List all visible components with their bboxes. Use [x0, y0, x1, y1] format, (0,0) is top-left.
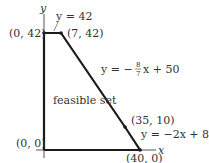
vertex-label-40-0: (40, 0) — [126, 152, 163, 163]
frac-den: 7 — [136, 70, 140, 78]
vertex-label-0-0: (0, 0) — [16, 137, 46, 150]
vertex-label-35-10: (35, 10) — [131, 114, 175, 127]
constraint-y42: y = 42 — [55, 10, 92, 23]
feasible-region-boundary — [44, 33, 140, 150]
constraint-prefix: y = − — [100, 63, 133, 76]
feasible-set-diagram: y x (0, 42) (7, 42) (35, 10) (40, 0) (0,… — [0, 0, 209, 163]
vertex-label-0-42: (0, 42) — [9, 27, 46, 40]
vertex-7-42 — [59, 31, 63, 35]
constraint-y-2x80: y = −2x + 80 — [140, 128, 209, 141]
vertex-35-10 — [123, 125, 127, 129]
feasible-set-label: feasible set — [53, 94, 117, 107]
pointer-y42 — [54, 22, 58, 31]
frac-num: 8 — [136, 61, 140, 69]
y-axis-label: y — [39, 2, 47, 15]
constraint-suffix: x + 50 — [143, 63, 179, 76]
constraint-slope-line: y = − — [100, 63, 133, 76]
vertex-label-7-42: (7, 42) — [67, 27, 104, 40]
